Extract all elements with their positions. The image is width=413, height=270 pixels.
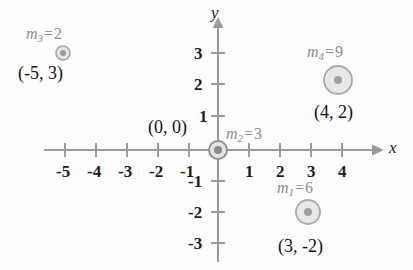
mass-label-m2: m2=3	[226, 126, 262, 144]
mass-symbol-m4: m	[307, 43, 319, 60]
x-tick-label--5: -5	[56, 163, 70, 180]
x-tick-label-4: 4	[338, 163, 347, 180]
y-axis-label: y	[211, 4, 219, 21]
mass-equals-m1: =	[294, 179, 304, 196]
coordinate-label-m4: (4, 2)	[314, 103, 353, 121]
mass-marker-m3	[56, 46, 70, 60]
x-axis-label: x	[389, 139, 397, 156]
mass-symbol-m1: m	[277, 179, 289, 196]
x-tick-label--3: -3	[118, 163, 132, 180]
x-tick-label--2: -2	[149, 163, 163, 180]
y-tick-label--3: -3	[188, 235, 202, 252]
mass-value-m4: 9	[334, 43, 343, 60]
mass-equals-m4: =	[324, 43, 334, 60]
y-tick-label--2: -2	[188, 204, 202, 221]
y-tick-label-2: 2	[194, 76, 203, 93]
mass-label-m1: m1=6	[277, 180, 313, 198]
origin-label: (0, 0)	[148, 118, 187, 136]
mass-symbol-m2: m	[226, 125, 238, 142]
coordinate-label-m1: (3, -2)	[278, 237, 323, 255]
mass-marker-m4	[324, 66, 352, 94]
mass-equals-m3: =	[43, 25, 53, 42]
mass-value-m3: 2	[53, 25, 62, 42]
x-tick-label-3: 3	[307, 163, 316, 180]
y-tick-label--1: -1	[188, 173, 202, 190]
x-tick-label-1: 1	[245, 163, 254, 180]
mass-equals-m2: =	[243, 125, 253, 142]
coordinate-label-m3: (-5, 3)	[18, 64, 63, 82]
y-tick-label-1: 1	[199, 108, 208, 125]
mass-value-m2: 3	[253, 125, 262, 142]
x-tick-label-2: 2	[276, 163, 285, 180]
mass-symbol-m3: m	[26, 25, 38, 42]
mass-label-m3: m3=2	[26, 26, 62, 44]
mass-value-m1: 6	[304, 179, 313, 196]
x-tick-label--4: -4	[87, 163, 101, 180]
mass-marker-m2	[209, 141, 227, 159]
mass-marker-m1	[296, 200, 320, 224]
y-axis	[211, 17, 225, 262]
mass-label-m4: m4=9	[307, 44, 343, 62]
coordinate-plane-figure: x y -5 -4 -3 -2 -1 1 2 3 4 3 2 1 -1 -2 -…	[0, 0, 413, 270]
y-tick-label-3: 3	[194, 45, 203, 62]
